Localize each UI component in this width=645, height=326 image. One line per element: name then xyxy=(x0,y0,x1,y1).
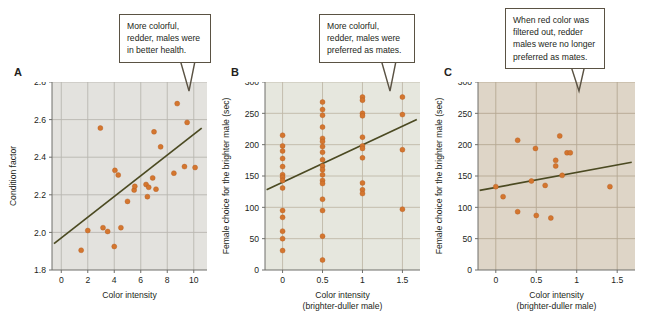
data-point xyxy=(154,187,159,192)
data-point xyxy=(280,148,285,153)
x-tick-label: 0 xyxy=(493,275,498,285)
data-point xyxy=(175,101,180,106)
y-tick-label: 100 xyxy=(458,203,473,213)
x-tick-label: 8 xyxy=(165,275,170,285)
data-point xyxy=(112,168,117,173)
y-axis-label: Condition factor xyxy=(8,82,18,270)
panel-letter: B xyxy=(231,66,239,78)
panel-b: BMore colorful, redder, males were prefe… xyxy=(215,0,430,326)
plot-area: 1.82.02.22.42.62.80246810 xyxy=(16,82,211,286)
data-point xyxy=(105,229,110,234)
data-point xyxy=(360,135,365,140)
data-point xyxy=(607,184,612,189)
data-point xyxy=(320,257,325,262)
y-tick-label: 1.8 xyxy=(34,265,46,275)
data-point xyxy=(533,146,538,151)
plot-area: 05010015020025030000.511.5 xyxy=(229,82,424,286)
data-point xyxy=(280,133,285,138)
data-point xyxy=(320,167,325,172)
data-point xyxy=(501,194,506,199)
y-tick-label: 100 xyxy=(245,203,260,213)
data-point xyxy=(400,112,405,117)
data-point xyxy=(534,213,539,218)
data-point xyxy=(280,164,285,169)
x-tick-label: 10 xyxy=(189,275,199,285)
data-point xyxy=(150,175,155,180)
x-tick-label: 0.5 xyxy=(317,275,329,285)
data-point xyxy=(360,113,365,118)
x-axis-label-line1: Color intensity xyxy=(46,290,213,301)
data-point xyxy=(320,113,325,118)
data-point xyxy=(101,225,106,230)
callout-box: When red color was filtered out, redder … xyxy=(505,8,605,69)
y-tick-label: 150 xyxy=(458,171,473,181)
data-point xyxy=(171,171,176,176)
data-point xyxy=(553,158,558,163)
x-tick-label: 0 xyxy=(280,275,285,285)
x-axis-label: Color intensity(brighter-duller male) xyxy=(472,290,641,312)
y-axis-label: Female choice for the brighter male (sec… xyxy=(221,82,231,270)
x-tick-label: 1.5 xyxy=(396,275,408,285)
y-tick-label: 50 xyxy=(462,234,472,244)
y-tick-label: 300 xyxy=(245,82,260,87)
data-point xyxy=(320,150,325,155)
data-point xyxy=(543,183,548,188)
data-point xyxy=(116,173,121,178)
y-tick-label: 200 xyxy=(245,140,260,150)
x-tick-label: 0.5 xyxy=(530,275,542,285)
y-tick-label: 2.4 xyxy=(34,152,46,162)
data-point xyxy=(560,173,565,178)
data-point xyxy=(280,156,285,161)
x-axis-label-line1: Color intensity xyxy=(259,290,426,301)
data-point xyxy=(118,225,123,230)
x-tick-label: 6 xyxy=(138,275,143,285)
data-point xyxy=(360,98,365,103)
x-tick-label: 1 xyxy=(360,275,365,285)
y-tick-label: 200 xyxy=(458,140,473,150)
y-tick-label: 2.6 xyxy=(34,115,46,125)
data-point xyxy=(557,133,562,138)
data-point xyxy=(146,185,151,190)
data-point xyxy=(280,178,285,183)
figure-root: AMore colorful, redder, males were in be… xyxy=(0,0,645,326)
data-point xyxy=(320,144,325,149)
y-tick-label: 2.0 xyxy=(34,228,46,238)
panel-c: CWhen red color was filtered out, redder… xyxy=(430,0,645,326)
data-point xyxy=(320,197,325,202)
y-tick-label: 0 xyxy=(467,265,472,275)
y-axis-label: Female choice for the brighter male (sec… xyxy=(434,82,444,270)
data-point xyxy=(182,164,187,169)
data-point xyxy=(360,146,365,151)
data-point xyxy=(193,165,198,170)
data-point xyxy=(320,100,325,105)
data-point xyxy=(158,144,163,149)
panel-a: AMore colorful, redder, males were in be… xyxy=(0,0,215,326)
y-tick-label: 300 xyxy=(458,82,473,87)
y-tick-label: 2.8 xyxy=(34,82,46,87)
data-point xyxy=(98,126,103,131)
y-tick-label: 50 xyxy=(249,234,259,244)
data-point xyxy=(515,209,520,214)
data-point xyxy=(320,125,325,130)
x-axis-label: Color intensity xyxy=(46,290,213,301)
data-point xyxy=(568,150,573,155)
data-point xyxy=(320,157,325,162)
data-point xyxy=(320,234,325,239)
data-point xyxy=(320,208,325,213)
plot-background xyxy=(52,82,207,270)
x-tick-label: 0 xyxy=(59,275,64,285)
data-point xyxy=(185,120,190,125)
data-point xyxy=(79,248,84,253)
data-point xyxy=(320,172,325,177)
y-tick-label: 250 xyxy=(245,109,260,119)
data-point xyxy=(280,248,285,253)
data-point xyxy=(360,191,365,196)
data-point xyxy=(280,229,285,234)
data-point xyxy=(280,208,285,213)
data-point xyxy=(280,185,285,190)
data-point xyxy=(400,147,405,152)
data-point xyxy=(320,139,325,144)
x-tick-label: 2 xyxy=(85,275,90,285)
data-point xyxy=(280,236,285,241)
data-point xyxy=(320,107,325,112)
